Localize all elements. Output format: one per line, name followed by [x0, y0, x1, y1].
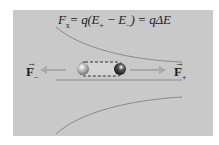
force-formula: Fx= q(E+ − E−) = qΔE [58, 12, 171, 30]
force-plus-label: →F+ [174, 64, 186, 82]
field-line-upper [56, 27, 182, 62]
force-minus-label: →F− [26, 64, 38, 82]
positive-charge [114, 63, 126, 75]
negative-charge [77, 63, 89, 75]
arrow-left-icon [40, 66, 47, 74]
field-line-lower [56, 97, 182, 134]
arrow-right-icon [159, 66, 166, 74]
